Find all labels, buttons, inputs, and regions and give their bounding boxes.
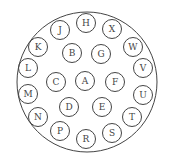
pin-label: T [129,112,135,122]
pin-label: P [57,126,63,136]
pin-e: E [93,98,112,117]
pin-f: F [106,73,125,92]
pin-label: A [81,76,89,86]
pin-label: W [128,42,138,52]
pin-label: S [109,128,115,138]
pin-label: N [34,112,42,122]
pin-label: M [23,89,32,99]
pin-b: B [63,44,82,63]
pin-r: R [77,130,96,149]
pin-label: J [57,25,62,35]
pin-label: V [139,63,147,73]
pin-label: L [25,63,31,73]
pin-u: U [134,86,153,105]
connector-pinout-diagram: HXWVUTSRPNMLKJBGCAFDE [0,0,171,166]
pin-l: L [19,59,38,78]
pin-label: B [69,48,76,58]
pin-m: M [19,85,38,104]
pin-label: F [112,77,118,87]
pin-k: K [29,38,48,57]
pin-label: H [82,18,90,28]
pin-label: E [99,102,106,112]
pin-p: P [51,122,70,141]
pin-label: U [139,90,147,100]
pin-s: S [103,124,122,143]
pin-label: C [53,77,60,87]
pin-n: N [29,108,48,127]
pin-label: D [65,102,72,112]
pin-t: T [123,108,142,127]
pin-w: W [124,38,143,57]
pin-label: R [83,134,90,144]
pin-j: J [51,21,70,40]
pin-label: X [109,24,116,34]
pin-g: G [92,45,111,64]
pin-h: H [77,14,96,33]
pin-d: D [60,98,79,117]
pin-label: K [35,42,42,52]
pin-label: G [97,49,104,59]
pin-c: C [47,73,66,92]
pin-x: X [103,20,122,39]
pin-a: A [76,72,95,91]
pin-group: HXWVUTSRPNMLKJBGCAFDE [19,14,153,149]
pin-v: V [134,59,153,78]
